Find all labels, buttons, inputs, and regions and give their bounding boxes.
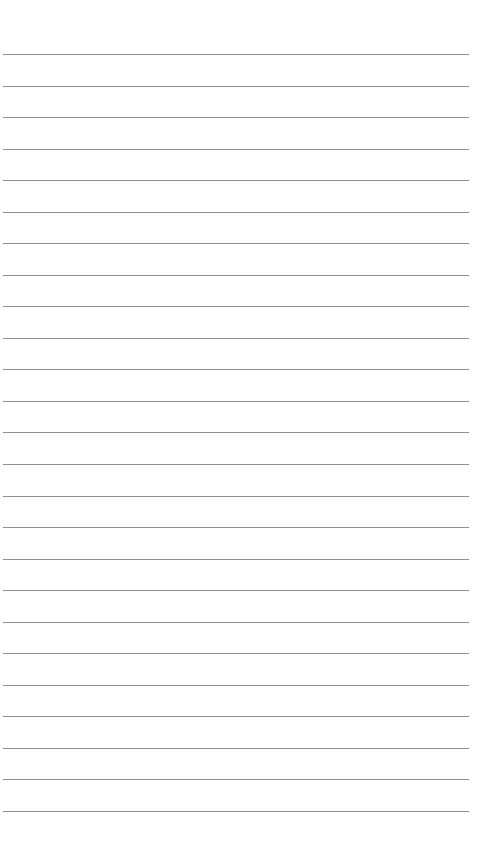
ruled-line	[3, 243, 469, 244]
ruled-line	[3, 716, 469, 717]
ruled-line	[3, 369, 469, 370]
ruled-line	[3, 401, 469, 402]
lined-paper-page	[0, 0, 491, 854]
ruled-line	[3, 86, 469, 87]
ruled-line	[3, 779, 469, 780]
ruled-line	[3, 685, 469, 686]
ruled-line	[3, 432, 469, 433]
ruled-line	[3, 496, 469, 497]
ruled-line	[3, 527, 469, 528]
ruled-line	[3, 275, 469, 276]
ruled-line	[3, 464, 469, 465]
ruled-line	[3, 622, 469, 623]
ruled-line	[3, 149, 469, 150]
ruled-line	[3, 559, 469, 560]
ruled-line	[3, 117, 469, 118]
ruled-line	[3, 180, 469, 181]
ruled-line	[3, 653, 469, 654]
ruled-line	[3, 212, 469, 213]
ruled-line	[3, 338, 469, 339]
ruled-line	[3, 811, 469, 812]
ruled-line	[3, 306, 469, 307]
ruled-line	[3, 748, 469, 749]
ruled-line	[3, 54, 469, 55]
ruled-line	[3, 590, 469, 591]
